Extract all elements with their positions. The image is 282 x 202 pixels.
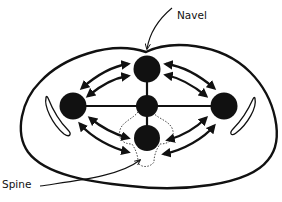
spine-label: Spine — [2, 178, 31, 190]
node-top — [134, 56, 161, 83]
node-bottom — [134, 125, 160, 151]
spine-pointer — [40, 160, 140, 186]
node-center — [136, 95, 158, 117]
torso-diagram: Navel Spine — [0, 0, 282, 202]
node-right — [211, 93, 238, 120]
navel-label: Navel — [177, 9, 207, 21]
node-left — [60, 93, 87, 120]
arrow-left-bottom-inner — [90, 118, 128, 138]
arrow-right-bottom-inner — [168, 118, 206, 140]
navel-pointer — [147, 8, 172, 49]
